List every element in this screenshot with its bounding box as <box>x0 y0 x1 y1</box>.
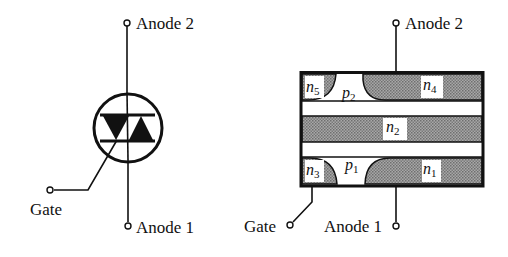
anode1-terminal-icon <box>125 223 131 229</box>
structure-anode1-terminal-icon <box>393 223 399 229</box>
symbol-gate-label: Gate <box>30 200 62 219</box>
gate-lead <box>54 140 117 190</box>
diode-triangle-down-icon <box>103 116 129 140</box>
triac-diagram: Anode 2 Anode 1 Gate Anode 2 <box>0 0 508 257</box>
symbol-anode1-label: Anode 1 <box>136 218 194 237</box>
structure-gate-lead <box>293 187 312 222</box>
triac-symbol: Anode 2 Anode 1 Gate <box>30 14 194 237</box>
structure-anode2-terminal-icon <box>393 20 399 26</box>
gate-terminal-icon <box>47 187 53 193</box>
structure-anode1-label: Anode 1 <box>324 217 382 236</box>
symbol-anode2-label: Anode 2 <box>136 14 194 33</box>
structure-gate-label: Gate <box>244 217 276 236</box>
structure-gate-terminal-icon <box>287 222 293 228</box>
diode-triangle-up-icon <box>129 116 153 140</box>
triac-structure: Anode 2 n5 p2 n4 n2 n3 <box>244 14 483 236</box>
structure-anode2-label: Anode 2 <box>405 14 463 33</box>
anode2-terminal-icon <box>124 20 130 26</box>
